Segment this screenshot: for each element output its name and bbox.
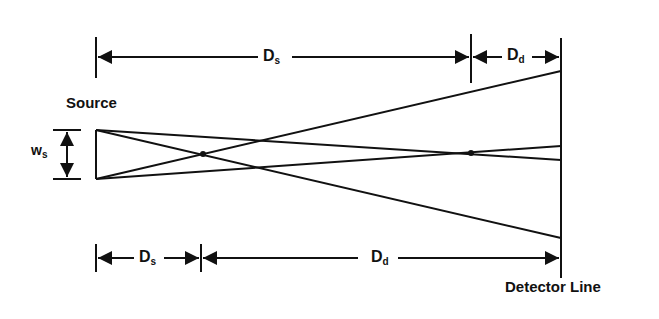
ray-top-to-bottom	[96, 130, 561, 238]
detector-label: Detector Line	[505, 278, 601, 295]
crossing-point-near	[200, 151, 206, 157]
source-label: Source	[66, 94, 117, 111]
top-detector-distance-label: Dd	[507, 46, 525, 64]
top-source-distance-label: Ds	[263, 47, 280, 65]
bottom-detector-distance-label: Dd	[371, 248, 389, 266]
bottom-source-distance-label: Ds	[139, 248, 156, 266]
crossing-point-far	[468, 150, 474, 156]
diagram-canvas	[0, 0, 659, 319]
width-label: ws	[31, 142, 47, 158]
ray-top-narrow	[96, 130, 561, 160]
